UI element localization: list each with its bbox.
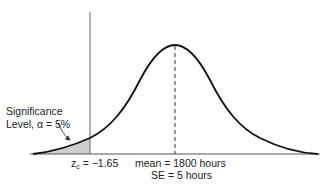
zc-value: = −1.65 xyxy=(80,157,119,169)
significance-label-line1: Significance xyxy=(6,105,63,117)
mean-label: mean = 1800 hours xyxy=(135,157,226,169)
rejection-region-shade xyxy=(33,138,90,154)
significance-label-line2: Level, α = 5% xyxy=(6,118,70,130)
critical-z-label: zc = −1.65 xyxy=(71,157,118,173)
standard-error-label: SE = 5 hours xyxy=(151,169,212,181)
